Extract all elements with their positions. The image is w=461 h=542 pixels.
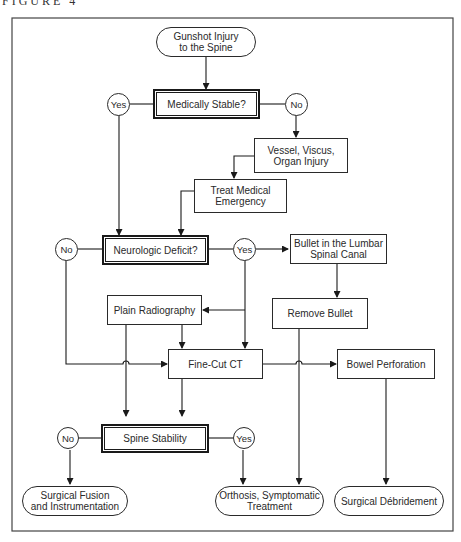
nd-no-label: No <box>60 244 72 255</box>
neuro-label: Neurologic Deficit? <box>114 245 198 256</box>
vessel-injury-box: Vessel, Viscus, Organ Injury <box>254 138 348 173</box>
connector-layer <box>0 0 461 542</box>
bowel-perforation-box: Bowel Perforation <box>337 349 435 379</box>
vessel-label: Vessel, Viscus, Organ Injury <box>267 145 334 167</box>
orthosis-terminal: Orthosis, Symptomatic Treatment <box>215 486 324 516</box>
remove-bullet-box: Remove Bullet <box>272 298 368 329</box>
bullet-lumbar-box: Bullet in the Lumbar Spinal Canal <box>290 234 387 264</box>
ms-no-label: No <box>290 99 302 110</box>
spine-stability-label: Spine Stability <box>123 433 186 444</box>
surgical-fusion-terminal: Surgical Fusion and Instrumentation <box>22 486 128 516</box>
ss-yes-label: Yes <box>236 433 252 444</box>
start-label: Gunshot Injury to the Spine <box>173 31 238 53</box>
decision-medically-stable: Medically Stable? <box>154 90 259 118</box>
ms-yes-circle: Yes <box>107 93 130 116</box>
ss-yes-circle: Yes <box>233 427 255 449</box>
start-terminal: Gunshot Injury to the Spine <box>156 27 256 57</box>
bowel-label: Bowel Perforation <box>347 359 426 370</box>
nd-no-circle: No <box>55 238 78 261</box>
debridement-label: Surgical Débridement <box>341 496 437 507</box>
nd-yes-label: Yes <box>237 244 253 255</box>
orthosis-label: Orthosis, Symptomatic Treatment <box>219 490 320 512</box>
plain-radiography-label: Plain Radiography <box>114 305 196 316</box>
remove-bullet-label: Remove Bullet <box>287 308 352 319</box>
fine-cut-ct-label: Fine-Cut CT <box>188 359 242 370</box>
ms-no-circle: No <box>285 93 308 116</box>
fine-cut-ct-box: Fine-Cut CT <box>168 349 263 379</box>
treat-emergency-box: Treat Medical Emergency <box>194 179 287 213</box>
medically-stable-label: Medically Stable? <box>167 99 245 110</box>
ss-no-label: No <box>62 433 74 444</box>
bullet-lumbar-label: Bullet in the Lumbar Spinal Canal <box>294 238 383 260</box>
ss-no-circle: No <box>57 427 79 449</box>
treat-label: Treat Medical Emergency <box>210 185 270 207</box>
decision-spine-stability: Spine Stability <box>102 425 208 452</box>
ms-yes-label: Yes <box>111 99 127 110</box>
decision-neurologic-deficit: Neurologic Deficit? <box>103 236 208 264</box>
nd-yes-circle: Yes <box>233 238 256 261</box>
fusion-label: Surgical Fusion and Instrumentation <box>31 490 119 512</box>
surgical-debridement-terminal: Surgical Débridement <box>334 486 444 516</box>
plain-radiography-box: Plain Radiography <box>107 295 202 325</box>
